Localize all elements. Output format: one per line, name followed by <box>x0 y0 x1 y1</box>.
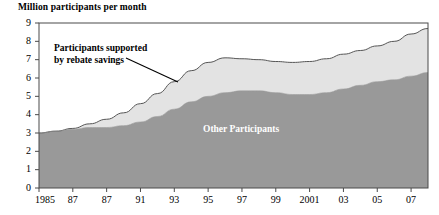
y-axis-tick-label: 4 <box>15 108 31 119</box>
x-axis-ticks <box>39 188 411 192</box>
y-axis-tick-label: 6 <box>15 72 31 83</box>
x-axis-tick-label: 91 <box>135 194 145 205</box>
x-axis-tick-label: 95 <box>203 194 213 205</box>
x-axis-tick-label: 1985 <box>35 194 55 205</box>
x-axis-tick-label: 03 <box>338 194 348 205</box>
upper-band-label: Participants supported by rebate savings <box>54 42 147 66</box>
x-axis-tick-label: 07 <box>406 194 416 205</box>
y-axis-tick-label: 0 <box>15 182 31 193</box>
y-axis-tick-label: 7 <box>15 53 31 64</box>
lower-band-label: Other Participants <box>203 124 279 134</box>
plot-canvas <box>0 0 439 215</box>
area-chart: Million participants per month 012345678… <box>0 0 439 215</box>
x-axis-tick-label: 97 <box>237 194 247 205</box>
x-axis-tick-label: 2001 <box>300 194 320 205</box>
y-axis-tick-label: 2 <box>15 145 31 156</box>
y-axis-ticks <box>35 23 39 188</box>
y-axis-tick-label: 3 <box>15 127 31 138</box>
x-axis-tick-label: 93 <box>169 194 179 205</box>
x-axis-tick-label: 87 <box>102 194 112 205</box>
y-axis-tick-label: 1 <box>15 163 31 174</box>
y-axis-tick-label: 8 <box>15 35 31 46</box>
y-axis-tick-label: 9 <box>15 17 31 28</box>
x-axis-tick-label: 99 <box>271 194 281 205</box>
y-axis-tick-label: 5 <box>15 90 31 101</box>
x-axis-tick-label: 05 <box>372 194 382 205</box>
x-axis-tick-label: 87 <box>68 194 78 205</box>
